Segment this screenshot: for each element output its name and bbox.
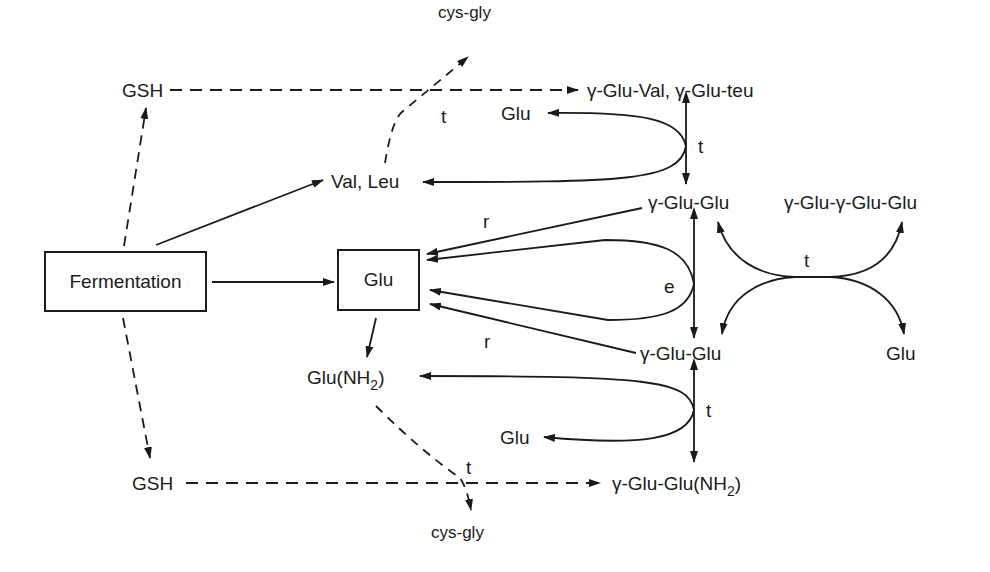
glu-right-label: Glu (886, 344, 916, 363)
edge-label-r-lower: r (484, 332, 490, 351)
edge-label-t-lower-loop: t (706, 401, 711, 420)
cysgly-bottom-label: cys-gly (431, 524, 484, 541)
t-cross-to-left-up (718, 222, 795, 277)
gglu-glu-nh2-label: γ-Glu-Glu(NH2) (612, 474, 741, 498)
edge-label-r-upper: r (483, 212, 489, 231)
gglu-glu-lower-label: γ-Glu-Glu (640, 344, 721, 363)
upper-loop-to-valleu (423, 146, 686, 182)
t-cross-to-gglu-gglu-glu (830, 222, 902, 277)
gglu-glu-upper-label: γ-Glu-Glu (648, 193, 729, 212)
edge-label-t-upper-loop: t (698, 137, 703, 156)
glu-box-label: Glu (364, 269, 394, 291)
lower-loop-to-glunh2 (420, 376, 694, 410)
edge-fermentation-to-gsh-top (124, 108, 146, 246)
upper-loop-to-glu (548, 113, 686, 146)
e-loop-upper (427, 240, 694, 284)
glu-box: Glu (337, 249, 420, 311)
gsh-top-label: GSH (122, 81, 163, 100)
edge-valleu-to-cysgly-top (385, 57, 468, 163)
edge-gglu-glu-lower-to-glu (430, 304, 636, 353)
t-cross-to-glu-right (830, 277, 904, 334)
gglu-gglu-glu-label: γ-Glu-γ-Glu-Glu (784, 193, 917, 212)
edge-label-t-bottom: t (466, 458, 471, 477)
edge-glu-to-glunh2 (367, 318, 376, 357)
fermentation-label: Fermentation (70, 271, 182, 293)
edge-fermentation-to-valleu (156, 180, 323, 245)
glunh2-label: Glu(NH2) (307, 368, 384, 392)
gglu-valleu-label: γ-Glu-Val, γ-Glu-teu (587, 81, 753, 100)
gsh-bottom-label: GSH (132, 474, 173, 493)
edge-glunh2-to-cysgly-bottom (376, 406, 471, 510)
edge-label-t-cross: t (804, 251, 809, 270)
t-cross-to-left-down (722, 277, 795, 334)
glu-upper-loop-label: Glu (501, 104, 531, 123)
edge-label-e: e (664, 277, 675, 296)
edge-label-t-top: t (441, 107, 446, 126)
fermentation-box: Fermentation (44, 251, 207, 312)
glu-lower-loop-label: Glu (500, 428, 530, 447)
cysgly-top-label: cys-gly (438, 4, 491, 21)
edge-fermentation-to-gsh-bottom (123, 318, 150, 458)
valleu-label: Val, Leu (331, 172, 399, 191)
e-loop-lower (430, 284, 694, 320)
lower-loop-to-glu (544, 410, 694, 441)
